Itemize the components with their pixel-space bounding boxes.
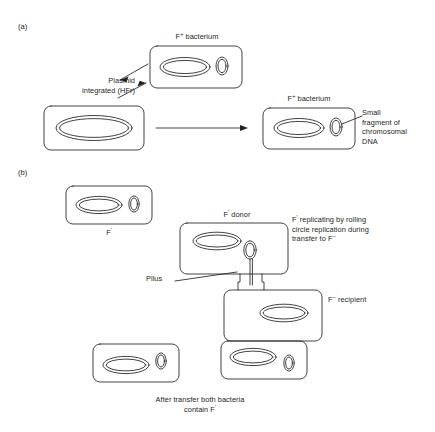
cell-result-left — [93, 344, 179, 382]
cell-result-right — [221, 341, 307, 379]
conjugation-figure: (a) F+ bacterium Plasmidintegrated (HFr)… — [0, 0, 435, 432]
panel-a-label: (a) — [18, 22, 27, 31]
label-rolling-circle: F′ replicating by rollingcircle replicat… — [292, 215, 430, 244]
label-plasmid-integrated: Plasmidintegrated (HFr) — [67, 76, 135, 95]
cell-f-prime — [66, 186, 152, 224]
label-f-minus-recipient: F− recipient — [328, 295, 366, 305]
label-f-prime-cell: F′ — [74, 228, 144, 238]
label-f-plus-bacterium-top: F+ bacterium — [152, 32, 242, 42]
label-after-transfer: After transfer both bacteriacontain F′ — [112, 395, 288, 414]
pilus-bridge — [238, 274, 264, 290]
label-pilus: Pilus — [146, 274, 162, 284]
label-f-plus-bacterium-right: F+ bacterium — [264, 94, 354, 104]
cell-f-minus-recipient — [224, 290, 322, 341]
label-small-fragment: Smallfragment ofchromosomalDNA — [362, 108, 432, 146]
arrow-transfer — [156, 125, 248, 131]
cell-f-prime-product — [263, 108, 355, 149]
cell-hfr — [44, 106, 144, 150]
panel-b-label: (b) — [18, 168, 27, 177]
cell-f-plus-donor — [150, 46, 242, 88]
label-f-prime-donor: F′ donor — [192, 210, 282, 220]
cell-f-prime-donor — [180, 223, 288, 285]
leader-small-fragment — [342, 116, 362, 124]
